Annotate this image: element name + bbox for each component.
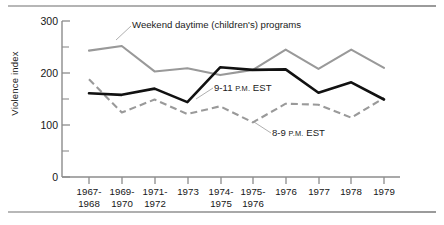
annotation-8-9-pm-main: 8-9 [272,127,289,138]
x-tick-label-1979: 1979 [364,186,404,198]
annotation-8-9-pm-smallcaps: P.M. [289,129,304,138]
y-tick-label-300: 300 [28,15,58,27]
figure-container: Violence index 300 200 100 0 1967- 1968 … [0,0,444,225]
annotation-weekend-daytime: Weekend daytime (children's) programs [132,19,301,30]
y-tick-label-100: 100 [28,119,58,131]
annotation-9-11-pm-main: 9-11 [214,82,235,93]
annotation-9-11-pm-tail: EST [250,82,271,93]
y-tick-label-0: 0 [28,171,58,183]
x-axis [62,177,400,184]
series-weekend-daytime [89,46,384,75]
y-tick-label-200: 200 [28,67,58,79]
annotation-9-11-pm-smallcaps: P.M. [235,84,250,93]
y-axis-title: Violence index [9,48,20,120]
annotation-9-11-pm: 9-11 P.M. EST [214,82,272,93]
y-axis [62,21,70,177]
annotation-8-9-pm: 8-9 P.M. EST [272,127,325,138]
annotation-8-9-pm-tail: EST [304,127,325,138]
annotation-leader-lines [116,26,271,133]
